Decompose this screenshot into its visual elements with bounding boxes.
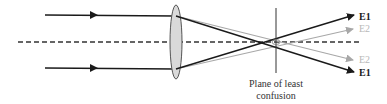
edge-ray-top — [176, 16, 354, 72]
aberration-diagram — [0, 0, 387, 104]
label-e1-bottom: E1 — [359, 67, 371, 78]
plane-caption: Plane of least confusion — [236, 78, 316, 102]
caption-line-1: Plane of least — [236, 78, 316, 90]
paraxial-ray-top — [176, 16, 353, 60]
incident-ray-bottom — [45, 64, 175, 72]
arrowhead-icon — [90, 64, 98, 72]
caption-line-2: confusion — [236, 90, 316, 102]
label-e1-top: E1 — [359, 11, 371, 22]
incident-ray-top — [45, 11, 175, 19]
label-e2-top: E2 — [359, 23, 370, 34]
arrowhead-icon — [90, 11, 98, 19]
label-e2-bottom: E2 — [359, 54, 370, 65]
